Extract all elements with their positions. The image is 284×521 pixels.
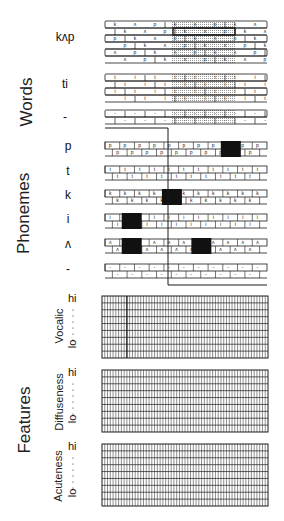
unit-glyph: ʌ bbox=[212, 239, 215, 245]
unit-glyph: - bbox=[264, 117, 266, 123]
unit-glyph: k bbox=[219, 197, 222, 203]
unit-glyph: - bbox=[227, 264, 229, 270]
unit-glyph: k bbox=[244, 28, 247, 34]
diffuseness-lo: lo bbox=[66, 415, 78, 424]
unit-glyph: t bbox=[124, 81, 126, 87]
unit-glyph: t bbox=[183, 166, 185, 172]
unit-glyph: k bbox=[190, 197, 193, 203]
acuteness-lo: lo bbox=[66, 489, 78, 498]
unit-glyph: k bbox=[241, 190, 244, 196]
unit-glyph: k bbox=[183, 190, 186, 196]
unit-glyph: - bbox=[212, 264, 214, 270]
unit-glyph: t bbox=[144, 95, 146, 101]
unit-glyph: t bbox=[154, 166, 156, 172]
unit-glyph: i bbox=[213, 214, 214, 220]
scale-dot bbox=[72, 321, 73, 322]
unit-glyph: ʌ bbox=[234, 246, 237, 252]
unit-glyph: p bbox=[164, 28, 167, 34]
scale-dot bbox=[72, 475, 73, 476]
unit-glyph: t bbox=[109, 166, 111, 172]
unit-glyph: k bbox=[197, 190, 200, 196]
phoneme-active-block bbox=[122, 238, 142, 254]
unit-glyph: i bbox=[174, 74, 175, 80]
unit-glyph: i bbox=[198, 214, 199, 220]
unit-glyph: - bbox=[154, 110, 156, 116]
unit-glyph: - bbox=[114, 110, 116, 116]
unit-glyph: i bbox=[144, 81, 145, 87]
phoneme-active-block bbox=[191, 238, 211, 254]
word-label-kap: kʌp bbox=[45, 30, 85, 44]
unit-glyph: t bbox=[117, 173, 119, 179]
scale-dot bbox=[72, 383, 73, 384]
unit-glyph: p bbox=[174, 35, 177, 41]
unit-glyph: i bbox=[242, 214, 243, 220]
unit-glyph: p bbox=[254, 49, 257, 55]
unit-glyph: p bbox=[109, 142, 112, 148]
unit-glyph: p bbox=[204, 149, 207, 155]
unit-glyph: t bbox=[176, 173, 178, 179]
unit-glyph: ʌ bbox=[244, 56, 247, 62]
scale-dot bbox=[72, 457, 73, 458]
word-label-silence: - bbox=[45, 110, 85, 124]
word-label-ti: ti bbox=[45, 77, 85, 91]
unit-glyph: p bbox=[124, 42, 127, 48]
unit-glyph: - bbox=[244, 117, 246, 123]
unit-glyph: t bbox=[242, 166, 244, 172]
unit-glyph: ʌ bbox=[264, 28, 267, 34]
feature-label-vocalic: Vocalic bbox=[53, 301, 65, 351]
phoneme-label-p: p bbox=[48, 139, 88, 153]
unit-glyph: t bbox=[227, 166, 229, 172]
unit-glyph: k bbox=[138, 190, 141, 196]
unit-glyph: i bbox=[250, 221, 251, 227]
scale-dot bbox=[72, 469, 73, 470]
unit-glyph: t bbox=[134, 88, 136, 94]
scale-dot bbox=[72, 315, 73, 316]
scale-dot bbox=[72, 481, 73, 482]
unit-glyph: - bbox=[168, 264, 170, 270]
unit-glyph: i bbox=[214, 74, 215, 80]
unit-glyph: i bbox=[114, 88, 115, 94]
unit-glyph: i bbox=[244, 95, 245, 101]
unit-glyph: k bbox=[153, 190, 156, 196]
unit-glyph: - bbox=[134, 110, 136, 116]
unit-glyph: t bbox=[154, 74, 156, 80]
unit-glyph: i bbox=[264, 81, 265, 87]
unit-glyph: p bbox=[249, 149, 252, 155]
section-label-words: Words bbox=[17, 77, 37, 127]
unit-glyph: ʌ bbox=[154, 35, 157, 41]
unit-glyph: t bbox=[168, 166, 170, 172]
unit-glyph: i bbox=[169, 214, 170, 220]
unit-glyph: - bbox=[154, 264, 156, 270]
unit-glyph: t bbox=[146, 173, 148, 179]
unit-glyph: k bbox=[264, 42, 267, 48]
unit-glyph: - bbox=[124, 264, 126, 270]
unit-glyph: p bbox=[190, 149, 193, 155]
unit-glyph: ʌ bbox=[227, 239, 230, 245]
unit-glyph: - bbox=[109, 264, 111, 270]
unit-glyph: i bbox=[220, 221, 221, 227]
feature-label-diffuseness: Diffuseness bbox=[53, 367, 65, 437]
unit-glyph: p bbox=[123, 142, 126, 148]
unit-glyph: i bbox=[204, 95, 205, 101]
unit-glyph: - bbox=[190, 271, 192, 277]
trace-network-diagram: kʌpkʌpkʌkʌpkʌpkʌpkʌpkʌpkpkʌpkʌpkʌpkʌpkʌp… bbox=[0, 0, 284, 521]
phoneme-active-block bbox=[122, 213, 142, 229]
unit-glyph: p bbox=[154, 21, 157, 27]
unit-glyph: ʌ bbox=[175, 246, 178, 252]
phoneme-label-silence: - bbox=[48, 262, 88, 276]
unit-glyph: t bbox=[257, 166, 259, 172]
unit-glyph: k bbox=[134, 35, 137, 41]
unit-glyph: t bbox=[161, 173, 163, 179]
scale-dot bbox=[72, 401, 73, 402]
unit-glyph: ʌ bbox=[234, 49, 237, 55]
unit-glyph: k bbox=[164, 56, 167, 62]
section-label-phonemes: Phonemes bbox=[14, 174, 34, 254]
unit-glyph: - bbox=[183, 264, 185, 270]
unit-glyph: i bbox=[234, 88, 235, 94]
unit-glyph: i bbox=[257, 214, 258, 220]
unit-glyph: p bbox=[160, 149, 163, 155]
unit-glyph: t bbox=[234, 74, 236, 80]
scale-dot bbox=[72, 389, 73, 390]
phoneme-label-k: k bbox=[48, 188, 88, 202]
unit-glyph: ʌ bbox=[219, 246, 222, 252]
